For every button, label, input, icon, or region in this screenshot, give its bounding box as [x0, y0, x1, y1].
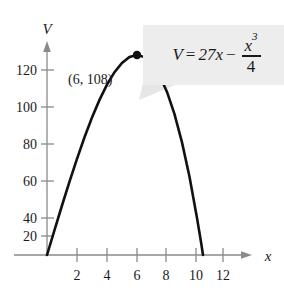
- x-tick-label-2: 2: [74, 268, 81, 283]
- x-axis: [14, 251, 252, 259]
- graph-figure: 120 100 80 60 40 20 2 4 6 8 10 12 V x (6…: [0, 0, 284, 302]
- y-axis-label: V: [42, 21, 53, 37]
- x-tick-label-8: 8: [163, 268, 170, 283]
- numerator-base: x: [245, 35, 253, 54]
- y-axis: [43, 41, 51, 255]
- x-tick-label-4: 4: [104, 268, 111, 283]
- x-tick-label-6: 6: [134, 268, 141, 283]
- equation-fraction: x3 4: [242, 35, 261, 76]
- equation-lhs: V: [172, 46, 182, 63]
- y-axis-tick-labels: 120 100 80 60 40 20: [16, 63, 37, 244]
- x-axis-tick-labels: 2 4 6 8 10 12: [74, 268, 231, 283]
- y-tick-label-120: 120: [16, 63, 37, 78]
- y-tick-label-20: 20: [23, 229, 37, 244]
- equation-term1: 27x: [198, 46, 223, 63]
- y-tick-label-40: 40: [23, 211, 37, 226]
- x-tick-label-12: 12: [216, 268, 230, 283]
- equation-minus: −: [226, 46, 236, 63]
- equation-fraction-denominator: 4: [244, 57, 259, 76]
- numerator-exponent: 3: [252, 30, 258, 42]
- equation-expression: V = 27x − x3 4: [172, 35, 260, 76]
- x-tick-label-10: 10: [189, 268, 203, 283]
- equation-callout: V = 27x − x3 4: [143, 25, 284, 85]
- y-tick-label-60: 60: [23, 174, 37, 189]
- maximum-point-marker: [133, 51, 141, 59]
- equation-fraction-numerator: x3: [242, 35, 261, 56]
- equation-equals: =: [186, 46, 196, 63]
- x-axis-label: x: [264, 248, 272, 264]
- y-tick-label-80: 80: [23, 137, 37, 152]
- maximum-point-label: (6, 108): [68, 72, 113, 88]
- y-tick-label-100: 100: [16, 100, 37, 115]
